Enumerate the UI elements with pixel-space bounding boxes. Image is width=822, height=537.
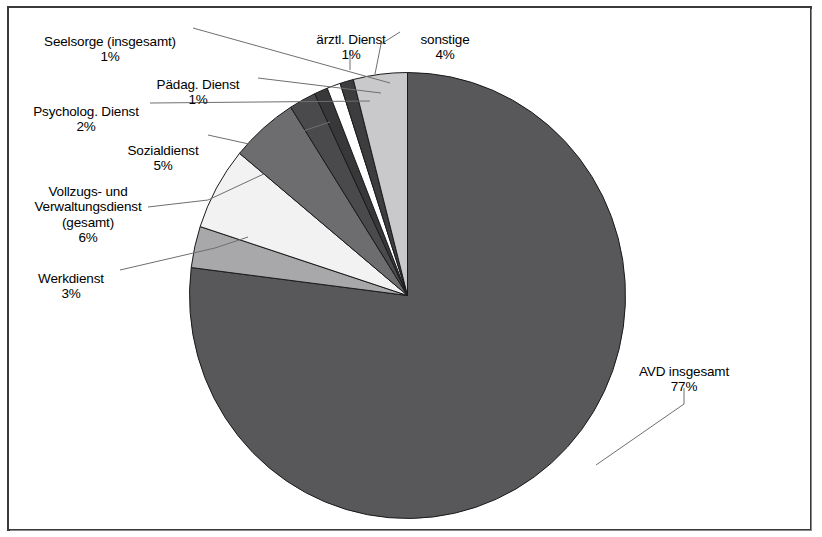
- label-paedag-name: Pädag. Dienst: [157, 77, 240, 92]
- label-sonstige: sonstige 4%: [400, 16, 490, 78]
- label-sonstige-name: sonstige: [420, 32, 469, 47]
- label-sonstige-pct: 4%: [400, 47, 490, 63]
- label-vollzugs-pct: 6%: [28, 230, 148, 246]
- label-werkdienst-name: Werkdienst: [38, 271, 104, 286]
- label-vollzugs-name: Vollzugs- und Verwaltungsdienst (gesamt): [34, 184, 141, 230]
- label-paedag-pct: 1%: [138, 92, 258, 108]
- label-aerztl: ärztl. Dienst 1%: [295, 16, 407, 78]
- label-avd-name: AVD insgesamt: [639, 364, 729, 379]
- label-avd-pct: 77%: [628, 379, 740, 395]
- pie-chart-svg: [0, 0, 822, 537]
- label-psycholog-name: Psycholog. Dienst: [33, 104, 139, 119]
- label-avd: AVD insgesamt 77%: [628, 348, 740, 410]
- label-vollzugs: Vollzugs- und Verwaltungsdienst (gesamt)…: [28, 168, 148, 261]
- label-seelsorge-name: Seelsorge (insgesamt): [44, 34, 176, 49]
- label-sozialdienst-name: Sozialdienst: [128, 143, 199, 158]
- label-werkdienst-pct: 3%: [22, 286, 120, 302]
- label-aerztl-name: ärztl. Dienst: [316, 32, 385, 47]
- label-werkdienst: Werkdienst 3%: [22, 255, 120, 317]
- pie-slices: [190, 73, 626, 519]
- chart-canvas: Seelsorge (insgesamt) 1% Pädag. Dienst 1…: [0, 0, 822, 537]
- label-aerztl-pct: 1%: [295, 47, 407, 63]
- label-paedag: Pädag. Dienst 1%: [138, 61, 258, 123]
